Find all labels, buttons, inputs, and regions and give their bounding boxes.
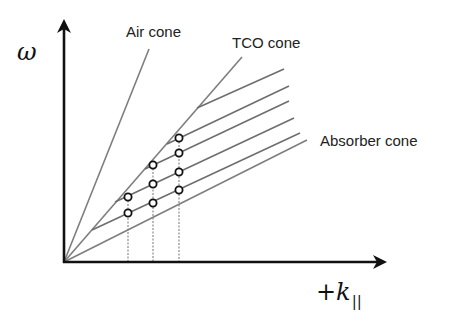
mode-point (149, 199, 156, 206)
mode-point (149, 161, 156, 168)
mode-point (175, 168, 182, 175)
mode-point (175, 186, 182, 193)
mode-point (124, 193, 131, 200)
mode-point (149, 180, 156, 187)
mode-line-5 (92, 133, 300, 230)
absorber-cone-line (64, 140, 307, 262)
x-axis-label: +k|| (316, 278, 362, 306)
mode-point (175, 134, 182, 141)
x-axis-label-main: k (336, 278, 351, 306)
x-axis-label-prefix: + (316, 278, 336, 306)
mode-line-1 (197, 69, 284, 108)
y-axis-label: ω (17, 38, 37, 66)
x-axis-label-sub: || (352, 292, 362, 310)
air-cone-label: Air cone (126, 23, 181, 40)
air-cone-line (64, 49, 149, 262)
mode-point (175, 149, 182, 156)
dispersion-diagram: ω +k|| Air cone TCO cone Absorber cone (0, 0, 464, 326)
tco-cone-label: TCO cone (232, 34, 300, 51)
mode-line-3 (145, 101, 289, 169)
mode-point (124, 209, 131, 216)
tco-cone-line (64, 57, 242, 262)
absorber-cone-label: Absorber cone (320, 132, 418, 149)
